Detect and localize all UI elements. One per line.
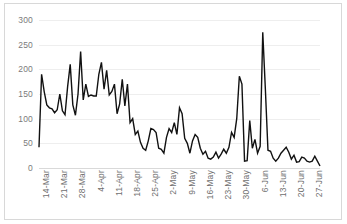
y-tick-label: 300 (18, 16, 33, 25)
x-tick-label: 16-May (206, 170, 215, 200)
plot-area (39, 20, 320, 168)
x-tick-label: 11-Apr (115, 170, 124, 196)
x-tick-label: 4-Apr (97, 170, 106, 192)
x-tick-label: 23-May (224, 170, 233, 200)
x-tick-label: 18-Apr (133, 170, 142, 197)
x-tick-label: 6-Jun (261, 170, 270, 192)
data-series-chart (39, 20, 320, 168)
y-tick-label: 200 (18, 65, 33, 74)
x-tick-label: 27-Jun (315, 170, 324, 197)
x-tick-label: 9-May (188, 170, 197, 195)
y-tick-label: 250 (18, 40, 33, 49)
y-tick-label: 0 (28, 164, 33, 173)
data-series-line (39, 32, 320, 166)
gridline-0 (39, 168, 320, 169)
line-chart-figure: 300250200150100500 14-Mar21-Mar28-Mar4-A… (0, 0, 347, 224)
x-tick-label: 13-Jun (279, 170, 288, 197)
x-tick-label: 21-Mar (60, 170, 69, 198)
x-tick-label: 14-Mar (42, 170, 51, 198)
y-axis: 300250200150100500 (0, 0, 39, 188)
x-tick-label: 25-Apr (151, 170, 160, 197)
y-tick-label: 150 (18, 90, 33, 99)
x-tick-label: 30-May (242, 170, 251, 200)
y-tick-label: 50 (23, 139, 33, 148)
y-tick-label: 100 (18, 114, 33, 123)
x-tick-label: 2-May (169, 170, 178, 195)
x-tick-label: 28-Mar (78, 170, 87, 198)
x-tick-label: 20-Jun (297, 170, 306, 197)
x-axis: 14-Mar21-Mar28-Mar4-Apr11-Apr18-Apr25-Ap… (39, 170, 320, 216)
